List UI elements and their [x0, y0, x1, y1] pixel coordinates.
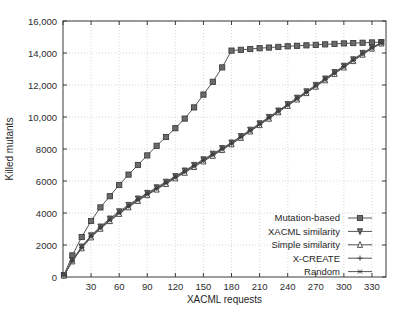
marker-filled-square	[238, 47, 243, 52]
legend-label: XACML similarity	[268, 226, 340, 237]
marker-filled-square	[135, 162, 140, 167]
marker-filled-square	[117, 182, 122, 187]
marker-filled-square	[220, 65, 225, 70]
y-tick-label: 16,000	[28, 16, 57, 27]
x-tick-label: 240	[280, 281, 296, 292]
y-tick-label: 6000	[36, 176, 57, 187]
marker-filled-square	[88, 218, 93, 223]
legend-item-simple-similarity[interactable]: Simple similarity	[271, 239, 372, 250]
legend: Mutation-basedXACML similaritySimple sim…	[268, 212, 372, 277]
marker-filled-square	[229, 48, 234, 53]
marker-filled-square	[304, 43, 309, 48]
marker-filled-square	[182, 116, 187, 121]
legend-label: Random	[304, 266, 340, 277]
x-tick-label: 270	[308, 281, 324, 292]
marker-filled-square	[360, 40, 365, 45]
legend-item-x-create[interactable]: X-CREATE	[293, 253, 372, 264]
legend-item-mutation-based[interactable]: Mutation-based	[275, 212, 372, 223]
marker-filled-square	[201, 92, 206, 97]
marker-filled-square	[210, 79, 215, 84]
line-chart: 3060901201501802102402703003300200040006…	[0, 0, 402, 316]
marker-filled-square	[154, 143, 159, 148]
legend-label: X-CREATE	[293, 253, 340, 264]
marker-filled-square	[163, 134, 168, 139]
marker-filled-square	[145, 153, 150, 158]
legend-label: Simple similarity	[271, 239, 340, 250]
marker-filled-square	[266, 45, 271, 50]
marker-filled-square	[126, 172, 131, 177]
marker-filled-square	[294, 43, 299, 48]
x-axis-title: XACML requests	[187, 294, 262, 305]
x-tick-label: 330	[364, 281, 380, 292]
y-tick-label: 8000	[36, 144, 57, 155]
y-axis-title: Killed mutants	[4, 118, 15, 181]
x-tick-label: 180	[224, 281, 240, 292]
y-tick-label: 4000	[36, 208, 57, 219]
marker-filled-square	[257, 46, 262, 51]
marker-filled-square	[341, 41, 346, 46]
marker-filled-square	[107, 194, 112, 199]
marker-filled-square	[351, 40, 356, 45]
y-tick-label: 10,000	[28, 112, 57, 123]
x-tick-label: 150	[196, 281, 212, 292]
marker-filled-square	[79, 234, 84, 239]
x-tick-label: 90	[142, 281, 153, 292]
marker-filled-square	[276, 44, 281, 49]
marker-filled-square	[248, 46, 253, 51]
legend-item-random[interactable]: Random	[304, 266, 372, 277]
marker-star	[357, 270, 362, 274]
marker-filled-square	[98, 205, 103, 210]
marker-filled-square	[191, 105, 196, 110]
x-tick-label: 30	[86, 281, 97, 292]
y-tick-label: 12,000	[28, 80, 57, 91]
x-tick-label: 120	[167, 281, 183, 292]
y-tick-label: 14,000	[28, 48, 57, 59]
y-tick-label: 2000	[36, 240, 57, 251]
chart-container: 3060901201501802102402703003300200040006…	[0, 0, 402, 316]
marker-filled-square	[285, 44, 290, 49]
marker-filled-square	[313, 42, 318, 47]
marker-plus	[357, 256, 362, 261]
y-tick-label: 0	[52, 272, 57, 283]
marker-filled-square	[332, 41, 337, 46]
legend-label: Mutation-based	[275, 212, 340, 223]
marker-filled-square	[357, 215, 362, 220]
x-tick-label: 60	[114, 281, 125, 292]
legend-item-xacml-similarity[interactable]: XACML similarity	[268, 226, 372, 237]
x-tick-label: 300	[336, 281, 352, 292]
marker-filled-square	[323, 42, 328, 47]
marker-filled-square	[173, 126, 178, 131]
x-tick-label: 210	[252, 281, 268, 292]
